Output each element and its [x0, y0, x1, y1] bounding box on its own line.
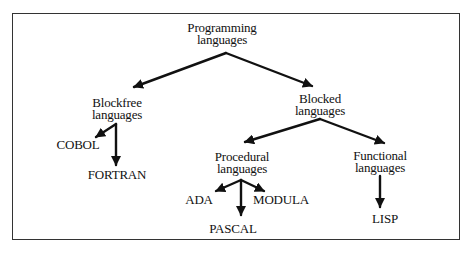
node-lisp: LISP — [372, 212, 398, 225]
node-blockfree-languages: Blockfree languages — [92, 97, 142, 121]
node-cobol: COBOL — [56, 138, 99, 151]
node-label-line2: languages — [353, 162, 407, 174]
edge-procedural-modula — [241, 180, 264, 191]
edge-root-blockfree — [134, 53, 226, 87]
node-blocked-languages: Blocked languages — [295, 93, 345, 117]
node-functional-languages: Functional languages — [353, 150, 407, 174]
node-label-line2: languages — [92, 109, 142, 121]
node-label-line2: languages — [187, 34, 256, 46]
edge-blocked-functional — [320, 119, 384, 143]
node-modula: MODULA — [253, 193, 309, 206]
edge-procedural-ada — [216, 180, 241, 191]
node-label-line2: languages — [215, 163, 269, 175]
node-ada: ADA — [185, 193, 213, 206]
node-fortran: FORTRAN — [88, 168, 147, 181]
node-programming-languages: Programming languages — [187, 22, 256, 46]
edge-root-blocked — [226, 53, 312, 86]
node-procedural-languages: Procedural languages — [215, 151, 269, 175]
edge-blockfree-cobol — [96, 124, 116, 137]
edge-blocked-procedural — [245, 119, 320, 142]
node-pascal: PASCAL — [209, 222, 256, 235]
node-label-line2: languages — [295, 105, 345, 117]
